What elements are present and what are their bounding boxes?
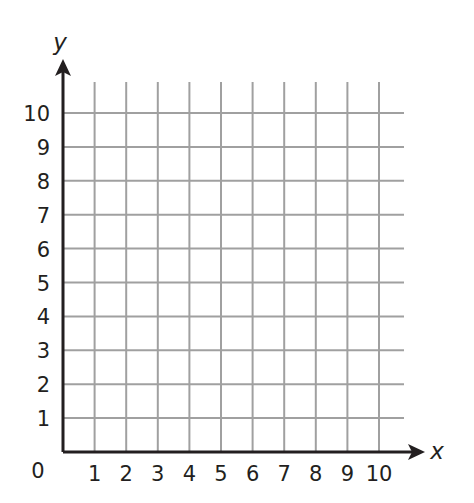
y-tick-label: 8 <box>37 170 50 194</box>
x-axis-label: x <box>429 438 444 464</box>
x-tick-label: 2 <box>120 462 133 486</box>
x-tick-label: 8 <box>309 462 322 486</box>
axes <box>55 59 425 460</box>
y-tick-label: 2 <box>37 373 50 397</box>
x-tick-labels: 12345678910 <box>88 462 392 486</box>
x-tick-label: 10 <box>366 462 393 486</box>
x-tick-label: 3 <box>151 462 164 486</box>
y-tick-label: 5 <box>37 272 50 296</box>
y-tick-labels: 12345678910 <box>23 102 50 431</box>
y-tick-label: 9 <box>37 136 50 160</box>
y-tick-label: 7 <box>37 204 50 228</box>
x-tick-label: 4 <box>183 462 196 486</box>
y-axis-label: y <box>52 29 67 55</box>
y-tick-label: 10 <box>23 102 50 126</box>
x-tick-label: 6 <box>246 462 259 486</box>
x-tick-label: 5 <box>214 462 227 486</box>
y-tick-label: 1 <box>37 407 50 431</box>
origin-label: 0 <box>31 459 44 483</box>
coordinate-grid: 12345678910 12345678910 0 x y <box>0 0 474 503</box>
y-tick-label: 3 <box>37 339 50 363</box>
grid-lines <box>63 82 404 452</box>
y-tick-label: 6 <box>37 238 50 262</box>
x-tick-label: 7 <box>278 462 291 486</box>
y-tick-label: 4 <box>37 305 50 329</box>
x-tick-label: 9 <box>341 462 354 486</box>
x-tick-label: 1 <box>88 462 101 486</box>
